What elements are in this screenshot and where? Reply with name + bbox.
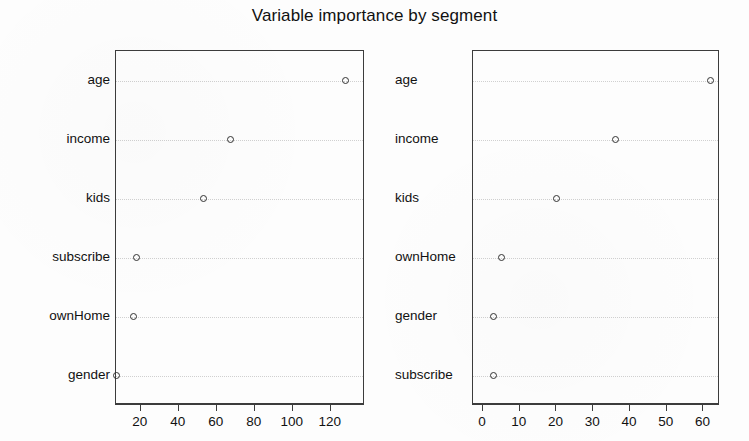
axis-tick-label: 40 bbox=[621, 414, 636, 429]
left-panel-x-axis: 20406080100120 bbox=[115, 404, 364, 441]
axis-tick-label: 40 bbox=[170, 414, 185, 429]
category-label-gender: gender bbox=[68, 368, 110, 382]
data-point bbox=[130, 313, 137, 320]
gridline bbox=[473, 376, 718, 377]
axis-tick-label: 30 bbox=[585, 414, 600, 429]
axis-tick-label: 100 bbox=[281, 414, 304, 429]
axis-tick-label: 60 bbox=[208, 414, 223, 429]
data-point bbox=[200, 195, 207, 202]
axis-tick bbox=[254, 404, 255, 411]
right-panel-x-axis: 0102030405060 bbox=[472, 404, 719, 441]
axis-tick-label: 120 bbox=[319, 414, 342, 429]
data-point bbox=[553, 195, 560, 202]
gridline bbox=[116, 140, 363, 141]
axis-tick bbox=[666, 404, 667, 411]
data-point bbox=[227, 136, 234, 143]
gridline bbox=[116, 199, 363, 200]
right-panel-plot-area bbox=[472, 50, 719, 404]
category-label-ownhome: ownHome bbox=[395, 250, 456, 264]
axis-tick-label: 80 bbox=[246, 414, 261, 429]
gridline bbox=[473, 81, 718, 82]
axis-tick bbox=[629, 404, 630, 411]
gridline bbox=[473, 258, 718, 259]
category-label-kids: kids bbox=[86, 191, 110, 205]
axis-tick bbox=[216, 404, 217, 411]
category-label-income: income bbox=[395, 132, 439, 146]
data-point bbox=[498, 254, 505, 261]
axis-tick bbox=[592, 404, 593, 411]
category-label-ownhome: ownHome bbox=[49, 309, 110, 323]
axis-line bbox=[472, 404, 719, 405]
data-point bbox=[707, 77, 714, 84]
gridline bbox=[116, 81, 363, 82]
category-label-gender: gender bbox=[395, 309, 437, 323]
gridline bbox=[116, 376, 363, 377]
gridline bbox=[473, 317, 718, 318]
axis-line bbox=[115, 404, 364, 405]
gridline bbox=[473, 199, 718, 200]
axis-tick-label: 10 bbox=[511, 414, 526, 429]
dotplot-figure: Variable importance by segment ageincome… bbox=[0, 0, 749, 441]
axis-tick-label: 60 bbox=[695, 414, 710, 429]
category-label-kids: kids bbox=[395, 191, 419, 205]
page-title: Variable importance by segment bbox=[0, 6, 749, 26]
left-panel-plot-area bbox=[115, 50, 364, 404]
category-label-subscribe: subscribe bbox=[395, 368, 453, 382]
axis-tick bbox=[519, 404, 520, 411]
axis-tick-label: 20 bbox=[132, 414, 147, 429]
gridline bbox=[116, 317, 363, 318]
data-point bbox=[490, 313, 497, 320]
axis-tick bbox=[330, 404, 331, 411]
axis-tick bbox=[140, 404, 141, 411]
data-point bbox=[133, 254, 140, 261]
category-label-age: age bbox=[87, 73, 110, 87]
gridline bbox=[116, 258, 363, 259]
axis-tick bbox=[482, 404, 483, 411]
axis-tick-label: 20 bbox=[548, 414, 563, 429]
data-point bbox=[113, 372, 120, 379]
axis-tick-label: 0 bbox=[478, 414, 486, 429]
right-panel-category-labels: ageincomekidsownHomegendersubscribe bbox=[395, 50, 467, 404]
axis-tick bbox=[178, 404, 179, 411]
data-point bbox=[612, 136, 619, 143]
left-panel-category-labels: ageincomekidssubscribeownHomegender bbox=[0, 50, 110, 404]
category-label-income: income bbox=[66, 132, 110, 146]
gridline bbox=[473, 140, 718, 141]
axis-tick-label: 50 bbox=[658, 414, 673, 429]
data-point bbox=[490, 372, 497, 379]
category-label-subscribe: subscribe bbox=[52, 250, 110, 264]
category-label-age: age bbox=[395, 73, 418, 87]
axis-tick bbox=[292, 404, 293, 411]
axis-tick bbox=[702, 404, 703, 411]
data-point bbox=[342, 77, 349, 84]
axis-tick bbox=[555, 404, 556, 411]
